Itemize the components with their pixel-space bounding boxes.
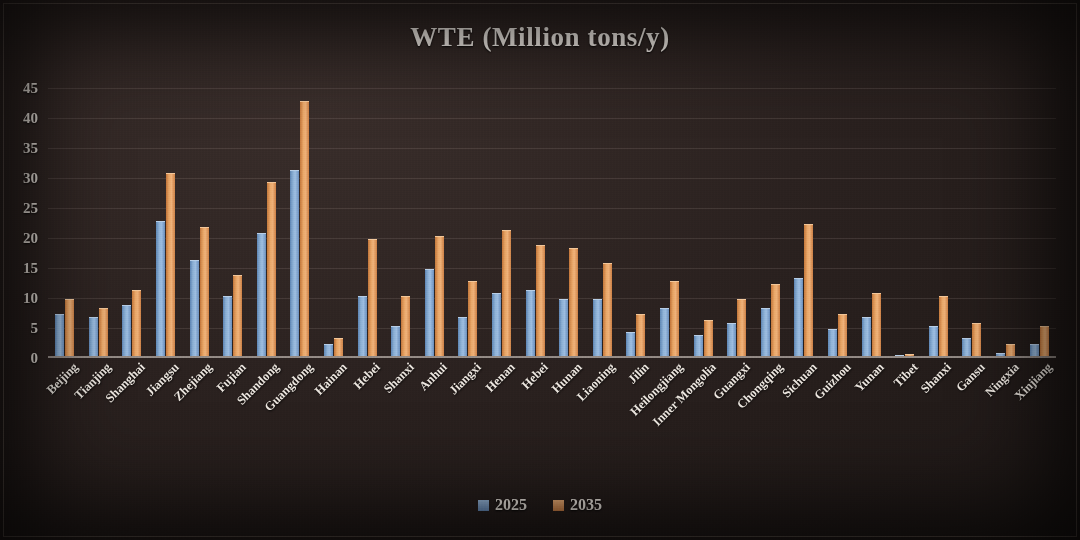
bar-2025 [358,296,367,356]
category-label: Xinjiang [1045,360,1056,371]
y-axis-tick-label: 0 [31,350,39,367]
legend-item-2025[interactable]: 2025 [478,496,527,514]
bar-2035 [435,236,444,356]
bar-2035 [569,248,578,356]
bar-group [317,88,351,356]
bar-2025 [929,326,938,356]
category-label-text: Hebei [351,360,384,393]
category-label: Hunan [575,360,586,371]
bar-2035 [502,230,511,356]
bar-2035 [1040,326,1049,356]
category-label: Shanxi [407,360,418,371]
bar-2025 [727,323,736,356]
category-label-text: Henan [483,360,519,396]
category-label: Zhejiang [205,360,216,371]
bar-2025 [492,293,501,356]
category-label: Guangxi [743,360,754,371]
bar-2025 [694,335,703,356]
bar-2035 [704,320,713,356]
y-axis-tick-label: 25 [23,200,38,217]
category-label: Jiangsu [172,360,183,371]
bar-group [854,88,888,356]
bar-2035 [267,182,276,356]
category-label-text: Hainan [312,360,351,399]
bar-2035 [603,263,612,356]
legend-label: 2025 [495,496,527,514]
bar-group [518,88,552,356]
category-label: Shanxi [944,360,955,371]
y-axis-tick-label: 40 [23,110,38,127]
bar-2025 [190,260,199,356]
bar-2025 [156,221,165,356]
category-label: Fujian [239,360,250,371]
bar-group [921,88,955,356]
plot-area [48,88,1056,358]
category-label: Sichuan [810,360,821,371]
category-label-text: Yunan [852,360,887,395]
category-label-text: Jiangxi [446,360,484,398]
bar-group [552,88,586,356]
bar-2035 [972,323,981,356]
bar-2025 [122,305,131,356]
bar-2025 [962,338,971,356]
category-label: Beijing [71,360,82,371]
bar-group [821,88,855,356]
category-label: Henan [508,360,519,371]
bar-2035 [300,101,309,356]
bar-2035 [132,290,141,356]
bar-2035 [200,227,209,356]
bar-2035 [65,299,74,356]
bar-group [451,88,485,356]
category-label: Yunan [877,360,888,371]
bar-group [955,88,989,356]
bar-group [149,88,183,356]
bar-group [619,88,653,356]
category-label: Heilongjiang [676,360,687,371]
bar-2025 [257,233,266,356]
bar-2035 [233,275,242,356]
category-label-text: Jilin [625,360,652,387]
category-label: Gansu [978,360,989,371]
bar-group [250,88,284,356]
bar-2025 [290,170,299,356]
bar-2025 [626,332,635,356]
category-label: Anhui [440,360,451,371]
legend-item-2035[interactable]: 2035 [553,496,602,514]
bar-2025 [55,314,64,356]
category-label: Tibet [911,360,922,371]
bar-group [787,88,821,356]
bar-2035 [536,245,545,356]
bar-2035 [636,314,645,356]
legend-label: 2035 [570,496,602,514]
legend-swatch-icon [478,500,489,511]
bar-2035 [1006,344,1015,356]
category-label: Hebei [541,360,552,371]
category-label-text: Hebei [519,360,552,393]
bar-2025 [526,290,535,356]
bar-2025 [425,269,434,356]
legend-swatch-icon [553,500,564,511]
bar-2035 [804,224,813,356]
bar-group [888,88,922,356]
bar-group [182,88,216,356]
bar-group [686,88,720,356]
bar-2035 [166,173,175,356]
bar-group [115,88,149,356]
category-label: Tianjing [104,360,115,371]
bar-group [586,88,620,356]
bar-2025 [89,317,98,356]
bar-2025 [862,317,871,356]
category-label-text: Guizhou [811,360,854,403]
y-axis-tick-label: 35 [23,140,38,157]
chart-legend: 20252035 [0,496,1080,514]
bar-2035 [670,281,679,356]
bar-group [418,88,452,356]
bar-2035 [368,239,377,356]
category-label: Jiangxi [474,360,485,371]
bar-2035 [838,314,847,356]
y-axis-tick-label: 10 [23,290,38,307]
bar-2025 [794,278,803,356]
y-axis-tick-label: 45 [23,80,38,97]
y-axis-tick-labels: 454035302520151050 [0,88,44,358]
bar-group [989,88,1023,356]
